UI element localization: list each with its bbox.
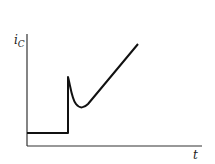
chart: iC t bbox=[0, 0, 215, 164]
x-axis-label: t bbox=[193, 148, 198, 162]
y-axis-label: iC bbox=[14, 33, 25, 49]
current-curve bbox=[27, 44, 138, 133]
